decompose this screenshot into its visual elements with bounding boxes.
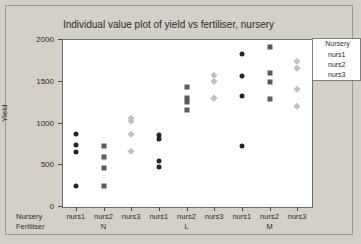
x-tick-label: nurs2 (94, 212, 113, 221)
legend-label: nurs3 (328, 71, 346, 78)
x-tick-label: nurs3 (205, 212, 224, 221)
chart-frame: Individual value plot of yield vs fertil… (5, 5, 353, 235)
x-tick-label: nurs1 (232, 212, 251, 221)
y-tick-mark (58, 206, 62, 207)
data-point (156, 165, 161, 170)
legend: Nursery nurs1 nurs2 nurs3 (312, 38, 361, 81)
y-tick-mark (58, 39, 62, 40)
x-tick-mark (159, 207, 160, 211)
data-point (73, 142, 78, 147)
x-tick-label: nurs2 (260, 212, 279, 221)
data-point (239, 73, 244, 78)
x-tick-label: nurs2 (177, 212, 196, 221)
legend-item-nurs3: nurs3 (317, 70, 346, 79)
x-group-label: L (184, 222, 188, 231)
x-tick-mark (214, 207, 215, 211)
y-axis-label: Yield (0, 105, 9, 123)
data-point (73, 149, 78, 154)
x-tick-mark (131, 207, 132, 211)
chart-screenshot: Individual value plot of yield vs fertil… (0, 0, 361, 244)
x-tick-label: nurs3 (288, 212, 307, 221)
data-point (239, 93, 244, 98)
data-point (184, 85, 189, 90)
legend-label: nurs1 (328, 51, 346, 58)
data-point (73, 183, 78, 188)
x-tick-label: nurs1 (66, 212, 85, 221)
y-tick-mark (58, 164, 62, 165)
data-point (239, 51, 244, 56)
x-tick-mark (270, 207, 271, 211)
data-point (239, 143, 244, 148)
data-point (101, 183, 106, 188)
y-tick-label: 1000 (28, 118, 54, 127)
y-tick-label: 2000 (28, 35, 54, 44)
y-tick-label: 1500 (28, 76, 54, 85)
legend-label: nurs2 (328, 61, 346, 68)
chart-title: Individual value plot of yield vs fertil… (36, 19, 301, 30)
x-tick-label: nurs3 (122, 212, 141, 221)
x-tick-mark (187, 207, 188, 211)
data-point (184, 99, 189, 104)
plot-area (62, 39, 313, 208)
data-point (101, 154, 106, 159)
x-group-label: M (266, 222, 272, 231)
y-tick-mark (58, 123, 62, 124)
y-tick-mark (58, 81, 62, 82)
x-tick-mark (297, 207, 298, 211)
data-point (267, 80, 272, 85)
axis-row-label-fertiliser: Fertiliser (16, 222, 45, 231)
x-tick-mark (104, 207, 105, 211)
data-point (101, 143, 106, 148)
data-point (101, 166, 106, 171)
x-group-label: N (101, 222, 106, 231)
axis-row-label-nursery: Nursery (16, 212, 42, 221)
data-point (73, 132, 78, 137)
x-tick-mark (76, 207, 77, 211)
legend-title: Nursery (313, 40, 361, 47)
y-tick-label: 500 (28, 160, 54, 169)
data-point (267, 96, 272, 101)
data-point (267, 70, 272, 75)
data-point (156, 158, 161, 163)
data-point (184, 107, 189, 112)
data-point (267, 44, 272, 49)
legend-item-nurs2: nurs2 (317, 60, 346, 69)
x-tick-mark (242, 207, 243, 211)
x-tick-label: nurs1 (149, 212, 168, 221)
y-tick-label: 0 (28, 202, 54, 211)
data-point (156, 136, 161, 141)
legend-item-nurs1: nurs1 (317, 50, 346, 59)
